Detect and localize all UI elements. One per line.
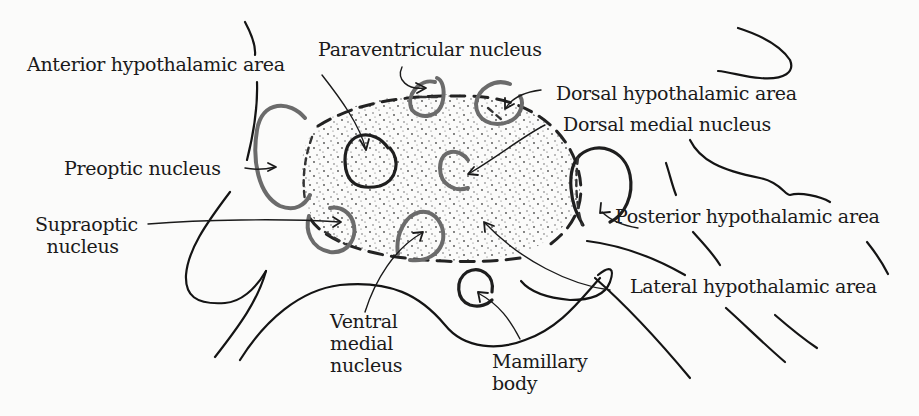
label-dorsal-medial-nucleus: Dorsal medial nucleus [563, 113, 771, 135]
label-ventral-medial-nucleus: Ventral medial nucleus [330, 310, 402, 376]
label-posterior-hypothalamic-area: Posterior hypothalamic area [615, 205, 880, 227]
label-paraventricular-nucleus: Paraventricular nucleus [318, 38, 542, 60]
label-mamillary-body: Mamillary body [492, 350, 587, 394]
mamillary-body-shape [459, 270, 493, 306]
label-dorsal-hypothalamic-area: Dorsal hypothalamic area [556, 82, 797, 104]
label-supraoptic-nucleus: Supraoptic nucleus [35, 213, 138, 257]
label-preoptic-nucleus: Preoptic nucleus [64, 157, 221, 179]
label-lateral-hypothalamic-area: Lateral hypothalamic area [630, 275, 877, 297]
preoptic-nucleus-shape [255, 106, 310, 209]
label-anterior-hypothalamic-area: Anterior hypothalamic area [27, 53, 285, 75]
